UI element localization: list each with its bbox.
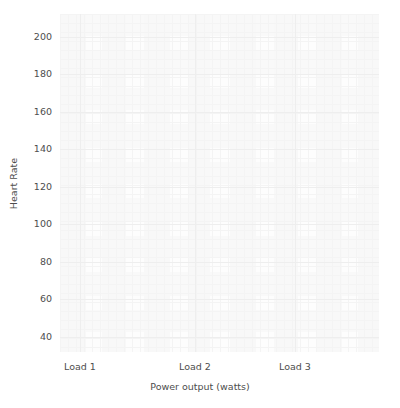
grid-line-vertical-major — [80, 14, 81, 352]
x-axis-tick-label: Load 1 — [40, 362, 120, 372]
grid-line-vertical-major — [295, 14, 296, 352]
grid-major — [60, 14, 379, 352]
grid-line-horizontal-major — [60, 112, 379, 113]
grid-line-horizontal-major — [60, 224, 379, 225]
y-axis-title: Heart Rate — [9, 157, 20, 208]
x-axis-title: Power output (watts) — [0, 381, 400, 392]
grid-line-horizontal-major — [60, 74, 379, 75]
grid-line-vertical-major — [195, 14, 196, 352]
x-axis-tick-label: Load 2 — [155, 362, 235, 372]
grid-line-horizontal-major — [60, 37, 379, 38]
plot-area — [60, 14, 379, 352]
grid-line-horizontal-major — [60, 187, 379, 188]
y-axis-title-wrap: Heart Rate — [6, 0, 22, 366]
grid-line-horizontal-major — [60, 337, 379, 338]
grid-line-horizontal-major — [60, 299, 379, 300]
x-axis-tick-label: Load 3 — [255, 362, 335, 372]
chart-figure: 200180160140120100806040 Load 1Load 2Loa… — [0, 0, 400, 408]
grid-line-horizontal-major — [60, 262, 379, 263]
grid-line-horizontal-major — [60, 149, 379, 150]
